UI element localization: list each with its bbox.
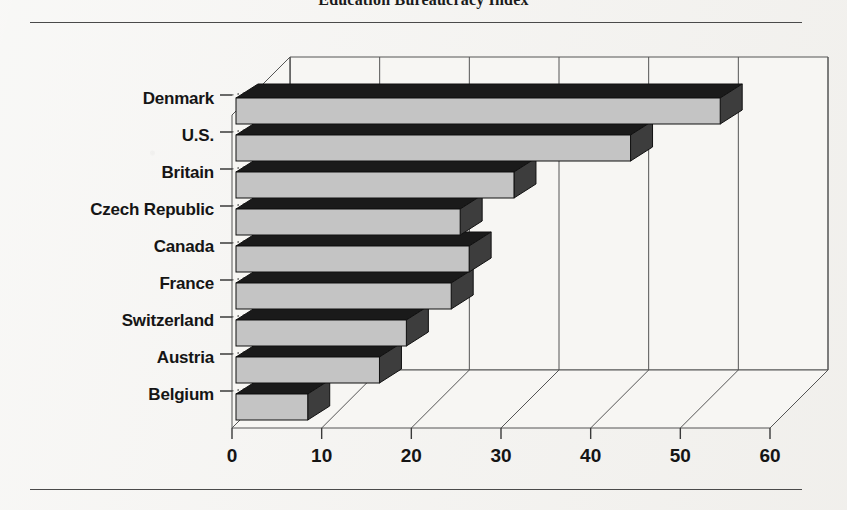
x-axis-label: 30 [476, 445, 526, 467]
y-axis-label: Austria [157, 348, 214, 368]
y-axis-label: Switzerland [122, 311, 214, 331]
x-axis-label: 50 [655, 445, 705, 467]
y-axis-label: France [159, 274, 214, 294]
y-axis-label: Belgium [148, 385, 214, 405]
bar-canada [236, 232, 491, 272]
chart-svg [0, 0, 847, 510]
bar-britain [236, 158, 536, 198]
bar-denmark [236, 84, 742, 124]
y-axis-label: Britain [162, 163, 214, 183]
x-axis-label: 10 [297, 445, 347, 467]
bar-belgium [236, 380, 330, 420]
bar-u-s- [236, 121, 653, 161]
y-axis-label: Denmark [143, 89, 214, 109]
y-axis-label: Canada [154, 237, 214, 257]
x-axis-label: 20 [386, 445, 436, 467]
x-axis-label: 60 [745, 445, 795, 467]
bar-austria [236, 343, 401, 383]
x-axis-label: 0 [207, 445, 257, 467]
bar-france [236, 269, 473, 309]
y-axis-label: Czech Republic [90, 200, 214, 220]
bar-chart: DenmarkU.S.BritainCzech RepublicCanadaFr… [0, 0, 847, 510]
y-axis-label: U.S. [182, 126, 214, 146]
bar-czech-republic [236, 195, 482, 235]
x-axis-label: 40 [566, 445, 616, 467]
chart-page: Education Bureaucracy Index DenmarkU.S.B… [0, 0, 847, 510]
bar-switzerland [236, 306, 428, 346]
